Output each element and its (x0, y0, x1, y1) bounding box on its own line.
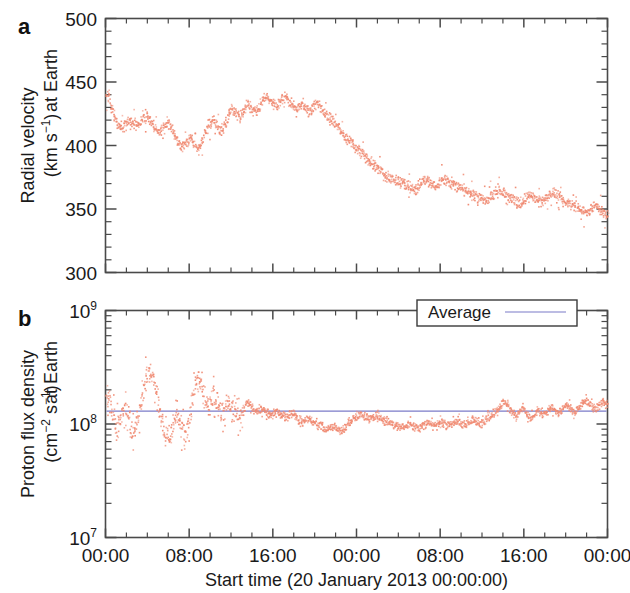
data-point (226, 395, 228, 397)
data-point (574, 202, 576, 204)
data-point (377, 410, 379, 412)
data-point (120, 417, 122, 419)
data-point (188, 144, 190, 146)
data-point (206, 404, 208, 406)
data-point (302, 98, 304, 100)
data-point (157, 388, 159, 390)
data-point (331, 424, 333, 426)
data-point (231, 421, 233, 423)
y-tick-label: 350 (65, 199, 97, 220)
data-point (272, 418, 274, 420)
data-point (512, 413, 514, 415)
data-point (509, 201, 511, 203)
data-point (218, 407, 220, 409)
data-point (120, 125, 122, 127)
data-point (249, 107, 251, 109)
data-point (335, 427, 337, 429)
data-point (403, 428, 405, 430)
data-point (575, 411, 577, 413)
data-point (220, 417, 222, 419)
data-point (201, 372, 203, 374)
data-point (422, 183, 424, 185)
data-point (134, 428, 136, 430)
data-point (184, 142, 186, 144)
data-point (536, 412, 538, 414)
data-point (329, 117, 331, 119)
data-point (135, 121, 137, 123)
data-point (294, 411, 296, 413)
data-point (304, 107, 306, 109)
data-point (459, 419, 461, 421)
legend[interactable]: Average (417, 300, 577, 326)
data-point (583, 207, 585, 209)
data-point (423, 178, 425, 180)
data-point (364, 412, 366, 414)
data-point (194, 393, 196, 395)
data-point (172, 133, 174, 135)
data-point (187, 434, 189, 436)
data-point (318, 425, 320, 427)
data-point (109, 94, 111, 96)
data-point (356, 415, 358, 417)
data-point (304, 104, 306, 106)
data-point (336, 425, 338, 427)
data-point (409, 181, 411, 183)
data-point (150, 116, 152, 118)
data-point (414, 430, 416, 432)
data-point (243, 414, 245, 416)
data-point (224, 425, 226, 427)
data-point (140, 116, 142, 118)
data-point (607, 215, 609, 217)
data-point (202, 389, 204, 391)
data-point (301, 423, 303, 425)
data-point (164, 434, 166, 436)
data-point (270, 417, 272, 419)
data-point (478, 197, 480, 199)
data-point (533, 199, 535, 201)
data-point (136, 422, 138, 424)
data-point (109, 390, 111, 392)
data-point (188, 418, 190, 420)
data-point (434, 188, 436, 190)
panel-a-ylabel-line1: Radial velocity (18, 87, 38, 203)
data-point (278, 107, 280, 109)
data-point (561, 412, 563, 414)
data-point (370, 160, 372, 162)
data-point (182, 426, 184, 428)
data-point (499, 403, 501, 405)
data-point (396, 425, 398, 427)
data-point (224, 418, 226, 420)
data-point (457, 416, 459, 418)
data-point (136, 411, 138, 413)
data-point (134, 124, 136, 126)
data-point (259, 110, 261, 112)
data-point (235, 113, 237, 115)
data-point (158, 132, 160, 134)
data-point (525, 195, 527, 197)
data-point (239, 418, 241, 420)
data-point (214, 402, 216, 404)
data-point (558, 209, 560, 211)
data-point (398, 179, 400, 181)
data-point (346, 135, 348, 137)
panel-a-ylabel-close: ) (41, 114, 61, 120)
data-point (478, 417, 480, 419)
data-point (300, 416, 302, 418)
data-point (400, 187, 402, 189)
data-point (340, 430, 342, 432)
data-point (497, 197, 499, 199)
data-point (544, 203, 546, 205)
data-point (190, 140, 192, 142)
data-point (568, 199, 570, 201)
data-point (242, 116, 244, 118)
data-point (273, 109, 275, 111)
data-point (418, 180, 420, 182)
data-point (148, 370, 150, 372)
data-point (140, 124, 142, 126)
data-point (330, 426, 332, 428)
data-point (176, 416, 178, 418)
data-point (288, 102, 290, 104)
data-point (252, 405, 254, 407)
data-point (454, 423, 456, 425)
data-point (240, 110, 242, 112)
